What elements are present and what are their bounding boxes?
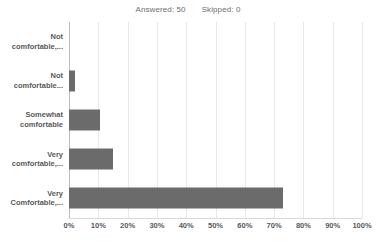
bar-row <box>69 61 362 100</box>
skipped-count: Skipped: 0 <box>202 5 241 14</box>
x-tick-label: 100% <box>352 221 371 230</box>
x-tick-label: 50% <box>208 221 223 230</box>
x-tick-label: 0% <box>64 221 75 230</box>
x-tick-label: 40% <box>179 221 194 230</box>
x-axis-line <box>69 218 362 219</box>
category-label: VeryComfortable,... <box>0 179 66 218</box>
x-tick-label: 70% <box>267 221 282 230</box>
category-label: Verycomfortable,... <box>0 140 66 179</box>
x-tick-label: 20% <box>120 221 135 230</box>
category-label-line: Not <box>51 32 64 42</box>
category-label-line: comfortable... <box>14 81 63 91</box>
answered-count: Answered: 50 <box>136 5 186 14</box>
category-label-line: Very <box>47 189 63 199</box>
category-axis-labels: Notcomfortable,...Notcomfortable...Somew… <box>0 22 66 218</box>
bar-row <box>69 140 362 179</box>
category-label-line: Not <box>51 71 64 81</box>
bar[interactable] <box>69 149 113 170</box>
category-label-line: Somewhat <box>25 110 63 120</box>
plot-area <box>69 22 362 218</box>
category-label-line: comfortable <box>20 120 63 130</box>
bar-row <box>69 100 362 139</box>
category-label: Somewhatcomfortable <box>0 100 66 139</box>
bar-row <box>69 179 362 218</box>
x-axis-tick-labels: 0%10%20%30%40%50%60%70%80%90%100% <box>0 221 376 235</box>
category-label-line: comfortable,... <box>12 42 63 52</box>
bar[interactable] <box>69 109 100 130</box>
x-tick-label: 30% <box>149 221 164 230</box>
category-label: Notcomfortable,... <box>0 22 66 61</box>
horizontal-bar-chart: Notcomfortable,...Notcomfortable...Somew… <box>0 18 376 242</box>
x-tick-label: 80% <box>296 221 311 230</box>
x-tick-label: 60% <box>237 221 252 230</box>
category-label-line: Very <box>47 150 63 160</box>
bar-series <box>69 22 362 218</box>
gridline-100 <box>362 22 363 218</box>
bar[interactable] <box>69 188 283 209</box>
x-tick-label: 10% <box>91 221 106 230</box>
category-label-line: comfortable,... <box>12 159 63 169</box>
survey-response-summary: Answered: 50 Skipped: 0 <box>0 2 376 16</box>
category-label: Notcomfortable... <box>0 61 66 100</box>
bar-row <box>69 22 362 61</box>
x-tick-label: 90% <box>325 221 340 230</box>
category-label-line: Comfortable,... <box>10 198 63 208</box>
bar[interactable] <box>69 70 75 91</box>
